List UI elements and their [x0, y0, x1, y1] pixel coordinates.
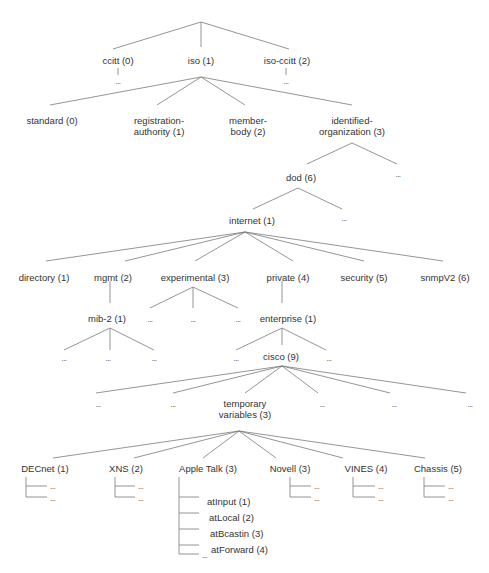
tree-edge [64, 328, 110, 350]
node-experimental: experimental (3) [161, 272, 230, 283]
ellipsis-placeholder: ... [190, 316, 195, 324]
node-directory: directory (1) [19, 272, 70, 283]
tree-edge [245, 366, 282, 393]
node-registration-authority: registration-authority (1) [134, 115, 185, 137]
tree-edge [134, 431, 239, 458]
ellipsis-placeholder: ... [115, 78, 120, 86]
leaf-atInput: atInput (1) [207, 496, 250, 507]
tree-edge [53, 431, 239, 458]
ellipsis-placeholder: ... [319, 401, 324, 409]
ellipsis-placeholder: ... [138, 483, 143, 491]
tree-edge [239, 431, 276, 458]
tree-edge [253, 188, 298, 209]
node-mib-2: mib-2 (1) [88, 313, 126, 324]
mib-tree-diagram: ccitt (0)iso (1)iso-ccitt (2)standard (0… [0, 0, 489, 573]
ellipsis-placeholder: ... [326, 355, 331, 363]
ellipsis-placeholder: ... [233, 355, 238, 363]
node-cisco: cisco (9) [263, 351, 299, 362]
tree-edge [201, 22, 289, 49]
tree-edge [298, 188, 342, 209]
tree-edge [195, 232, 245, 261]
ellipsis-placeholder: ... [391, 401, 396, 409]
ellipsis-placeholder: ... [151, 355, 156, 363]
node-dod: dod (6) [286, 172, 316, 183]
tree-edges [0, 0, 489, 573]
node-member-body: member-body (2) [229, 115, 267, 137]
tree-edge [46, 232, 245, 261]
node-appletalk: Apple Talk (3) [179, 463, 237, 474]
leaf-atLocal: atLocal (2) [209, 512, 254, 523]
node-temporary-variables: temporaryvariables (3) [219, 398, 271, 420]
ellipsis-placeholder: ... [147, 316, 152, 324]
node-private: private (4) [267, 272, 310, 283]
ellipsis-placeholder: ... [448, 495, 453, 503]
ellipsis-placeholder: ... [95, 401, 100, 409]
node-snmpV2: snmpV2 (6) [420, 272, 469, 283]
ellipsis-placeholder: ... [448, 483, 453, 491]
tree-edge [110, 328, 154, 350]
ellipsis-placeholder: ... [467, 401, 472, 409]
node-internet: internet (1) [229, 215, 275, 226]
tree-edge [150, 287, 193, 308]
ellipsis-placeholder: ... [341, 215, 346, 223]
tree-edge [282, 328, 326, 350]
node-vines: VINES (4) [345, 463, 388, 474]
ellipsis-placeholder: ... [138, 495, 143, 503]
tree-edge [239, 431, 343, 458]
node-security: security (5) [341, 272, 388, 283]
ellipsis-placeholder: ... [170, 401, 175, 409]
leaf-atForward: atForward (4) [211, 544, 268, 555]
ellipsis-placeholder: ... [283, 78, 288, 86]
tree-edge [245, 232, 293, 261]
tree-edge [282, 366, 318, 393]
node-standard: standard (0) [26, 115, 77, 126]
node-iso: iso (1) [188, 55, 214, 66]
node-mgmt: mgmt (2) [94, 272, 132, 283]
leaf-atBcastin: atBcastin (3) [210, 528, 263, 539]
tree-edge [307, 143, 352, 164]
ellipsis-placeholder: ... [314, 495, 319, 503]
node-iso-ccitt: iso-ccitt (2) [264, 55, 310, 66]
node-decnet: DECnet (1) [21, 463, 69, 474]
ellipsis-placeholder: ... [314, 483, 319, 491]
ellipsis-placeholder: ... [50, 495, 55, 503]
ellipsis-placeholder: ... [378, 495, 383, 503]
node-identified-organization: identified-organization (3) [319, 115, 385, 137]
ellipsis-placeholder: ... [395, 171, 400, 179]
tree-edge [245, 232, 443, 261]
tree-edge [239, 431, 425, 458]
ellipsis-placeholder: ... [235, 316, 240, 324]
node-novell: Novell (3) [270, 463, 311, 474]
tree-edge [352, 143, 397, 164]
ellipsis-placeholder: ... [378, 483, 383, 491]
ellipsis-placeholder: ... [50, 483, 55, 491]
node-chassis: Chassis (5) [414, 463, 462, 474]
tree-edge [236, 328, 282, 350]
ellipsis-placeholder: ... [61, 355, 66, 363]
node-ccitt: ccitt (0) [102, 55, 133, 66]
ellipsis-placeholder: ... [202, 552, 207, 560]
tree-edge [193, 287, 238, 308]
node-enterprise: enterprise (1) [260, 313, 317, 324]
tree-edge [113, 22, 201, 49]
ellipsis-placeholder: ... [105, 355, 110, 363]
node-xns: XNS (2) [109, 463, 143, 474]
